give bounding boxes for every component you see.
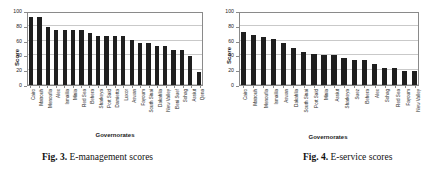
x-axis-tick-mark xyxy=(200,86,201,88)
y-axis-tick-mark xyxy=(24,86,27,87)
y-axis-tick-label: 60 xyxy=(0,39,22,44)
bar xyxy=(271,39,276,85)
figures-page: Score 020406080100 CairoMatrouhMenoufiaA… xyxy=(0,0,427,174)
y-axis-tick-label: 20 xyxy=(0,69,22,74)
x-axis-tick-label: Cairo xyxy=(32,89,37,100)
bar xyxy=(46,27,50,85)
x-axis-tick-label: Sharkeya xyxy=(346,89,351,108)
x-axis-tick-label: Cairo xyxy=(244,89,249,100)
x-axis-tick-label: Matrouh xyxy=(40,89,45,106)
y-axis-tick-label: 60 xyxy=(213,39,234,44)
x-axis-tick-mark xyxy=(98,86,99,88)
x-axis-tick-label: Matrouh xyxy=(254,89,259,106)
y-axis-tick-label: 0 xyxy=(213,83,234,88)
x-axis-tick-label: Sharkeya xyxy=(100,89,105,108)
x-axis-tick-mark xyxy=(344,86,345,88)
bar xyxy=(241,32,246,85)
x-axis-tick-label: Red Sea xyxy=(83,89,88,107)
chart-4-x-axis-title: Governorates xyxy=(253,134,403,140)
bar xyxy=(372,64,377,85)
x-axis-tick-label: Assiut xyxy=(336,89,341,102)
bar xyxy=(88,33,92,85)
bar xyxy=(188,56,192,85)
figure-4-block: Score 020406080100 CairoMatrouhMenoufiaI… xyxy=(213,0,427,174)
x-axis-tick-mark xyxy=(395,86,396,88)
x-axis-tick-label: Damietta xyxy=(116,89,121,107)
x-axis-tick-label: Red Sea xyxy=(397,89,402,107)
y-axis-tick-label: 80 xyxy=(0,24,22,29)
x-axis-tick-label: Dakahlia xyxy=(295,89,300,107)
x-axis-tick-label: New Valley xyxy=(417,89,422,112)
x-axis-tick-label: Assiut xyxy=(193,89,198,102)
x-axis-tick-label: Luxor xyxy=(125,89,130,101)
x-axis-tick-label: Port Said xyxy=(315,89,320,108)
bar xyxy=(138,43,142,85)
y-axis-tick-label: 100 xyxy=(213,9,234,14)
chart-4-bars xyxy=(240,13,418,85)
figure-4-caption: Fig. 4. E-service scores xyxy=(303,152,392,162)
x-axis-tick-mark xyxy=(183,86,184,88)
bar xyxy=(96,36,100,85)
x-axis-tick-mark xyxy=(174,86,175,88)
bar xyxy=(54,30,58,85)
bar xyxy=(301,52,306,85)
x-axis-tick-label: South Sinai xyxy=(150,89,155,113)
figure-3-caption: Fig. 3. E-management scores xyxy=(42,152,153,162)
bar xyxy=(412,71,417,85)
x-axis-tick-mark xyxy=(304,86,305,88)
y-axis-tick-label: 40 xyxy=(213,54,234,59)
y-axis-tick-label: 20 xyxy=(213,69,234,74)
bar xyxy=(281,43,286,85)
figure-3-caption-text: E-management scores xyxy=(69,152,153,162)
y-axis-tick-label: 40 xyxy=(0,54,22,59)
bar xyxy=(146,43,150,85)
bar xyxy=(321,55,326,85)
bar xyxy=(180,50,184,85)
x-axis-tick-mark xyxy=(30,86,31,88)
x-axis-tick-mark xyxy=(39,86,40,88)
x-axis-tick-label: Menoufia xyxy=(265,89,270,108)
x-axis-tick-mark xyxy=(375,86,376,88)
bar xyxy=(29,17,33,85)
y-axis-tick-mark xyxy=(236,86,239,87)
x-axis-tick-mark xyxy=(314,86,315,88)
x-axis-tick-label: Minia xyxy=(325,89,330,100)
x-axis-tick-mark xyxy=(283,86,284,88)
x-axis-tick-label: Ismailia xyxy=(275,89,280,105)
bar xyxy=(71,30,75,85)
x-axis-tick-mark xyxy=(253,86,254,88)
figure-4-caption-text: E-service scores xyxy=(330,152,392,162)
x-axis-tick-label: Dakahlia xyxy=(159,89,164,107)
chart-4-plot-area xyxy=(239,12,419,86)
x-axis-tick-mark xyxy=(293,86,294,88)
x-axis-tick-mark xyxy=(81,86,82,88)
bar xyxy=(352,60,357,85)
bar xyxy=(37,17,41,85)
x-axis-tick-mark xyxy=(149,86,150,88)
x-axis-tick-label: Aswan xyxy=(133,89,138,103)
bar xyxy=(362,60,367,85)
x-axis-tick-label: Minia xyxy=(74,89,79,100)
figure-4-caption-label: Fig. 4. xyxy=(303,152,328,162)
x-axis-tick-label: Suez xyxy=(356,89,361,99)
x-axis-tick-mark xyxy=(132,86,133,88)
x-axis-tick-label: Alex xyxy=(376,89,381,98)
bar xyxy=(130,40,134,85)
x-axis-tick-label: Fayoum xyxy=(142,89,147,106)
x-axis-tick-mark xyxy=(47,86,48,88)
bar xyxy=(382,68,387,85)
x-axis-tick-mark xyxy=(115,86,116,88)
x-axis-tick-label: Fayoum xyxy=(407,89,412,106)
x-axis-tick-label: Sohag xyxy=(386,89,391,102)
x-axis-tick-mark xyxy=(157,86,158,88)
bar xyxy=(79,30,83,85)
bar xyxy=(197,72,201,85)
chart-3-x-axis-title: Governorates xyxy=(40,132,190,138)
x-axis-tick-label: South Sinai xyxy=(305,89,310,113)
y-axis-tick-label: 100 xyxy=(0,9,22,14)
x-axis-tick-mark xyxy=(324,86,325,88)
bar xyxy=(171,50,175,85)
bar xyxy=(251,35,256,85)
bar xyxy=(113,36,117,85)
x-axis-tick-label: Beni Suef xyxy=(176,89,181,109)
